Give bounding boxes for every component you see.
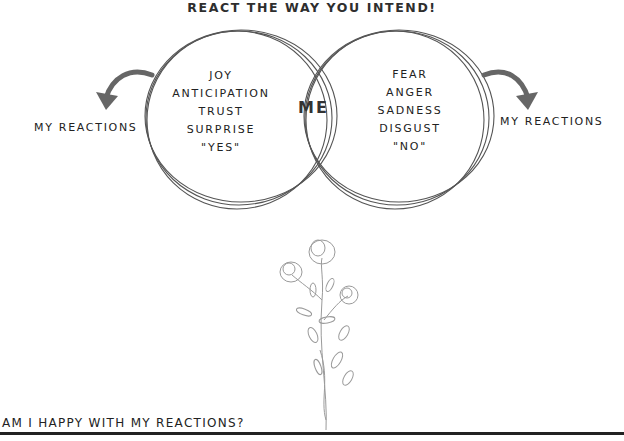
emotion-item: "YES" [146, 139, 296, 157]
negative-emotions-list: FEAR ANGER SADNESS DISGUST "NO" [360, 66, 460, 156]
emotion-item: "NO" [360, 138, 460, 156]
emotion-item: ANTICIPATION [146, 85, 296, 103]
right-arrow-icon [484, 72, 538, 110]
flower-illustration [280, 240, 358, 430]
emotion-item: DISGUST [360, 120, 460, 138]
left-reactions-label: MY REACTIONS [34, 121, 138, 134]
answer-line [0, 432, 624, 435]
right-reactions-label: MY REACTIONS [500, 115, 604, 128]
venn-diagram-art [0, 0, 624, 441]
emotion-item: SADNESS [360, 102, 460, 120]
reflection-question: AM I HAPPY WITH MY REACTIONS? [2, 416, 245, 430]
emotion-item: SURPRISE [146, 121, 296, 139]
emotion-item: JOY [146, 67, 296, 85]
left-arrow-icon [96, 72, 152, 110]
venn-center-label: ME [298, 98, 329, 117]
emotion-item: TRUST [146, 103, 296, 121]
positive-emotions-list: JOY ANTICIPATION TRUST SURPRISE "YES" [146, 67, 296, 157]
emotion-item: FEAR [360, 66, 460, 84]
emotion-item: ANGER [360, 84, 460, 102]
